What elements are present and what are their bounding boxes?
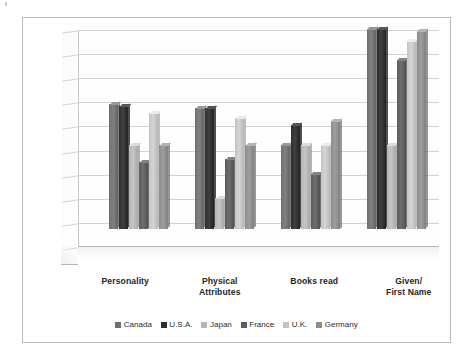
bar-side-face — [340, 118, 342, 228]
bar-group — [268, 30, 354, 229]
legend-item-france[interactable]: France — [241, 320, 274, 329]
bar-body — [377, 29, 386, 229]
x-axis-label-0: Personality — [78, 276, 173, 310]
bar-body — [301, 145, 310, 229]
bar-body — [281, 145, 290, 229]
bar-france — [397, 60, 406, 229]
gridline-lead — [62, 30, 80, 34]
bar-top-face — [130, 143, 142, 146]
bar-side-face — [254, 142, 256, 228]
bar-france — [311, 174, 320, 229]
bar-set — [195, 30, 254, 229]
x-axis-label-line: Physical — [173, 276, 268, 287]
bar-body — [215, 198, 224, 229]
x-axis-label-line: Books read — [267, 276, 362, 287]
legend-item-germany[interactable]: Germany — [316, 320, 357, 329]
bar-body — [387, 145, 396, 229]
x-axis-label-3: Given/First Name — [362, 276, 457, 310]
bar-uk — [235, 118, 244, 229]
scan-artifact-speck — [5, 2, 7, 6]
chart-frame: 0%10%20%30%40%50%60%70%80%90% Personalit… — [22, 17, 451, 343]
bar-usa — [377, 29, 386, 229]
bar-body — [417, 31, 426, 229]
bar-canada — [367, 29, 376, 229]
plot-floor — [78, 246, 439, 265]
bar-body — [407, 41, 416, 229]
bar-france — [139, 162, 148, 230]
bar-body — [109, 104, 118, 229]
x-axis-label-line: Attributes — [173, 287, 268, 298]
x-axis-label-1: PhysicalAttributes — [173, 276, 268, 310]
bar-uk — [407, 41, 416, 229]
bar-top-face — [160, 143, 172, 146]
bar-body — [225, 159, 234, 229]
bar-canada — [281, 145, 290, 229]
x-axis-labels: PersonalityPhysicalAttributesBooks readG… — [78, 276, 456, 310]
gridline-lead — [62, 199, 80, 203]
bar-set — [109, 30, 168, 229]
x-axis-label-line: First Name — [362, 287, 457, 298]
legend-swatch-icon — [115, 322, 121, 328]
legend-item-canada[interactable]: Canada — [115, 320, 152, 329]
legend-label: France — [249, 320, 274, 329]
bar-germany — [245, 145, 254, 229]
legend-swatch-icon — [316, 322, 322, 328]
x-axis-label-line: Given/ — [362, 276, 457, 287]
bar-body — [119, 106, 128, 229]
bar-body — [367, 29, 376, 229]
bar-body — [235, 118, 244, 229]
x-axis-label-2: Books read — [267, 276, 362, 310]
bar-body — [139, 162, 148, 230]
bar-japan — [129, 145, 138, 229]
bar-body — [311, 174, 320, 229]
bar-body — [245, 145, 254, 229]
legend-item-japan[interactable]: Japan — [201, 320, 231, 329]
bar-japan — [301, 145, 310, 229]
bar-body — [149, 113, 158, 229]
bar-body — [159, 145, 168, 229]
chart-legend: CanadaU.S.A.JapanFranceU.K.Germany — [23, 320, 450, 329]
bar-germany — [331, 121, 340, 230]
bar-germany — [159, 145, 168, 229]
bar-usa — [119, 106, 128, 229]
bar-canada — [195, 108, 204, 229]
bar-body — [291, 125, 300, 229]
bar-side-face — [426, 29, 428, 228]
bar-top-face — [110, 102, 122, 105]
bar-set — [281, 30, 340, 229]
legend-label: Japan — [210, 320, 232, 329]
bar-set — [367, 30, 426, 229]
legend-swatch-icon — [241, 322, 247, 328]
gridline-lead — [62, 54, 80, 58]
bar-germany — [417, 31, 426, 229]
legend-swatch-icon — [161, 322, 167, 328]
bar-uk — [149, 113, 158, 229]
bar-group — [182, 30, 268, 229]
bar-body — [331, 121, 340, 230]
legend-swatch-icon — [201, 322, 207, 328]
bar-japan — [387, 145, 396, 229]
plot-area: 0%10%20%30%40%50%60%70%80%90% — [61, 30, 439, 265]
legend-swatch-icon — [283, 322, 289, 328]
bar-body — [321, 145, 330, 229]
bar-side-face — [168, 142, 170, 228]
bar-group — [96, 30, 182, 229]
bar-usa — [291, 125, 300, 229]
bar-usa — [205, 108, 214, 229]
bar-france — [225, 159, 234, 229]
plot-wall — [78, 30, 439, 247]
bar-japan — [215, 198, 224, 229]
gridline-lead — [62, 102, 80, 106]
bar-group — [353, 30, 439, 229]
legend-label: Germany — [325, 320, 358, 329]
gridline-lead — [62, 126, 80, 130]
legend-item-uk[interactable]: U.K. — [283, 320, 307, 329]
bar-uk — [321, 145, 330, 229]
bar-body — [205, 108, 214, 229]
legend-item-usa[interactable]: U.S.A. — [161, 320, 193, 329]
bar-body — [195, 108, 204, 229]
gridline-lead — [62, 151, 80, 155]
legend-label: Canada — [124, 320, 152, 329]
legend-label: U.S.A. — [169, 320, 192, 329]
gridline-lead — [62, 175, 80, 179]
